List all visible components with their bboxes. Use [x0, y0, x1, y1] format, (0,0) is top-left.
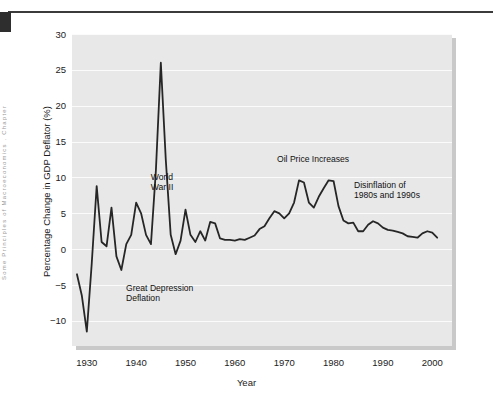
x-axis-tick-label: 1990	[363, 358, 403, 368]
annotation-world-war-ii: World War II	[140, 172, 184, 193]
x-axis-tick-label: 1980	[314, 358, 354, 368]
x-axis-tick-label: 1970	[264, 358, 304, 368]
annotation-great-depression: Great Depression Deflation	[126, 283, 193, 304]
y-axis-title: Percentage Change in GDP Deflator (%)	[41, 62, 52, 322]
annotation-disinflation: Disinflation of 1980s and 1990s	[354, 180, 420, 201]
x-axis-tick-label: 1930	[67, 358, 107, 368]
annotation-oil-price-increases: Oil Price Increases	[277, 154, 349, 164]
x-axis-tick-label: 1950	[166, 358, 206, 368]
x-axis-title: Year	[0, 377, 493, 388]
gdp-deflator-line-chart: 302520151050−5−10 1930194019501960197019…	[0, 0, 493, 404]
x-axis-tick-label: 1940	[116, 358, 156, 368]
x-axis-tick-label: 1960	[215, 358, 255, 368]
y-axis-tick-label: 30	[40, 30, 66, 40]
x-axis-tick-label: 2000	[412, 358, 452, 368]
